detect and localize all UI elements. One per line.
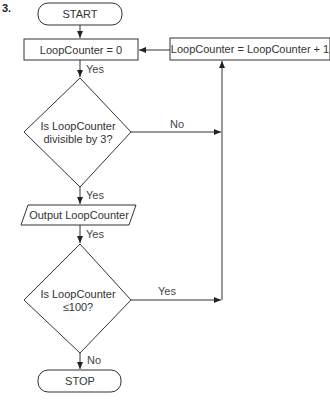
edge-label-output-yes: Yes <box>86 228 104 240</box>
decision-divisible-by-3: Is LoopCounter divisible by 3? <box>24 78 131 187</box>
increment-label: LoopCounter = LoopCounter + 1 <box>171 43 329 55</box>
stop-terminator: STOP <box>38 370 121 392</box>
output-io-box: Output LoopCounter <box>21 205 136 225</box>
output-label: Output LoopCounter <box>29 209 129 221</box>
edge-label-init-yes: Yes <box>86 63 104 75</box>
decision1-line2: divisible by 3? <box>43 133 112 145</box>
decision1-line1: Is LoopCounter <box>40 120 116 132</box>
edge-label-decision2-yes: Yes <box>158 285 176 297</box>
start-terminator: START <box>38 3 122 25</box>
stop-label: STOP <box>65 375 95 387</box>
flowchart: 3. START LoopCounter = 0 LoopCounter = L… <box>0 0 330 401</box>
init-label: LoopCounter = 0 <box>40 44 122 56</box>
figure-number: 3. <box>2 2 11 14</box>
increment-process-box: LoopCounter = LoopCounter + 1 <box>170 38 330 60</box>
decision2-line2: ≤100? <box>63 301 94 313</box>
decision-less-equal-100: Is LoopCounter ≤100? <box>24 244 131 353</box>
edge-label-decision2-no: No <box>87 354 101 366</box>
init-process-box: LoopCounter = 0 <box>24 39 138 60</box>
start-label: START <box>62 8 97 20</box>
edge-label-decision1-yes: Yes <box>86 189 104 201</box>
decision2-line1: Is LoopCounter <box>40 288 116 300</box>
edge-label-decision1-no: No <box>170 118 184 130</box>
